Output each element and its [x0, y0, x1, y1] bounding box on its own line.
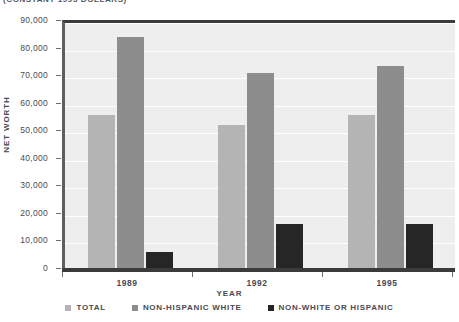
y-tick-mark — [56, 20, 61, 21]
bar — [218, 125, 245, 271]
y-tick-mark — [56, 268, 61, 269]
bar — [88, 115, 115, 271]
y-tick-label: 70,000 — [2, 70, 48, 80]
legend-item[interactable]: NON-HISPANIC WHITE — [132, 303, 242, 312]
y-tick-mark — [56, 158, 61, 159]
legend-label: NON-WHITE OR HISPANIC — [279, 303, 394, 312]
x-tick-mark — [452, 272, 453, 277]
legend-item[interactable]: NON-WHITE OR HISPANIC — [268, 303, 394, 312]
bar — [348, 115, 375, 272]
x-tick-label: 1992 — [227, 278, 287, 288]
y-tick-label: 40,000 — [2, 153, 48, 163]
y-tick-mark — [56, 240, 61, 241]
y-tick-label: 50,000 — [2, 125, 48, 135]
y-tick-label: 60,000 — [2, 98, 48, 108]
bar-group — [325, 23, 455, 271]
y-tick-mark — [56, 103, 61, 104]
chart-legend: TOTALNON-HISPANIC WHITENON-WHITE OR HISP… — [0, 303, 459, 312]
x-tick-mark — [62, 272, 63, 277]
bar — [247, 73, 274, 271]
y-tick-label: 0 — [2, 263, 48, 273]
legend-swatch-icon — [65, 305, 71, 311]
x-axis-baseline — [62, 268, 455, 272]
bar-group — [65, 23, 195, 271]
plot-inner — [65, 23, 455, 271]
y-tick-mark — [56, 213, 61, 214]
plot-area — [62, 20, 455, 271]
y-tick-mark — [56, 185, 61, 186]
x-axis-title: YEAR — [0, 289, 459, 298]
net-worth-bar-chart: (CONSTANT 1995 DOLLARS) NET WORTH 010,00… — [0, 0, 459, 322]
bar — [406, 224, 433, 271]
bar — [276, 224, 303, 271]
bar — [377, 66, 404, 271]
y-tick-label: 10,000 — [2, 235, 48, 245]
y-tick-mark — [56, 48, 61, 49]
x-tick-label: 1995 — [357, 278, 417, 288]
y-tick-label: 20,000 — [2, 208, 48, 218]
x-tick-label: 1989 — [97, 278, 157, 288]
y-axis: 010,00020,00030,00040,00050,00060,00070,… — [0, 0, 62, 322]
legend-label: TOTAL — [76, 303, 105, 312]
y-tick-mark — [56, 75, 61, 76]
x-tick-mark — [192, 272, 193, 277]
legend-item[interactable]: TOTAL — [65, 303, 105, 312]
bar — [117, 37, 144, 271]
x-tick-mark — [322, 272, 323, 277]
bar-group — [195, 23, 325, 271]
y-tick-label: 90,000 — [2, 15, 48, 25]
legend-label: NON-HISPANIC WHITE — [143, 303, 242, 312]
legend-swatch-icon — [268, 305, 274, 311]
y-tick-label: 80,000 — [2, 43, 48, 53]
y-tick-label: 30,000 — [2, 180, 48, 190]
legend-swatch-icon — [132, 305, 138, 311]
y-tick-mark — [56, 130, 61, 131]
